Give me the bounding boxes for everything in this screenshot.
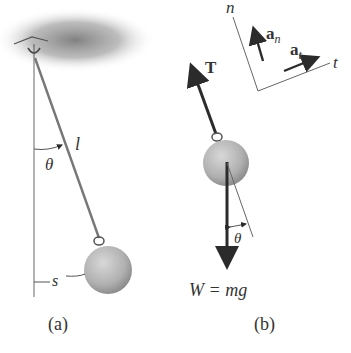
panel-a: θ l s (a)	[0, 8, 155, 335]
pendulum-diagram: θ l s (a) n t an at	[0, 0, 351, 353]
tension-label: T	[205, 58, 217, 77]
tension-arrow	[192, 68, 216, 134]
n-axis-label: n	[226, 0, 235, 17]
arc-length-label: s	[52, 272, 58, 289]
caption-b: (b)	[254, 314, 275, 335]
angle-label-b: θ	[234, 230, 242, 246]
arc-length-leader	[66, 274, 85, 276]
pendulum-cord	[35, 58, 99, 238]
ball-ring	[94, 237, 104, 245]
nt-axes: n t an at	[226, 0, 339, 91]
angle-label: θ	[45, 155, 53, 174]
tangential-accel-label: at	[290, 40, 303, 62]
n-axis	[233, 17, 258, 91]
panel-b: n t an at T θ W = mg (b)	[189, 0, 339, 335]
normal-accel-label: an	[266, 24, 281, 46]
caption-a: (a)	[48, 314, 68, 335]
angle-arc-b	[230, 224, 246, 227]
t-axis-label: t	[333, 53, 339, 72]
pendulum-bob[interactable]	[84, 246, 132, 294]
angle-arc	[34, 145, 62, 150]
normal-accel-arrow	[254, 30, 263, 61]
weight-label: W = mg	[189, 280, 247, 300]
ball-ring-b	[212, 133, 222, 141]
length-label: l	[75, 134, 80, 154]
